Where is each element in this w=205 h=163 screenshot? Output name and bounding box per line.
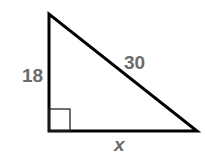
vertical-leg-label: 18 [22,65,43,86]
hypotenuse-label: 30 [124,52,145,73]
horizontal-leg-label: x [113,134,126,155]
right-triangle-diagram: 18 30 x [0,0,205,163]
right-angle-marker [49,109,70,131]
triangle [49,14,197,131]
